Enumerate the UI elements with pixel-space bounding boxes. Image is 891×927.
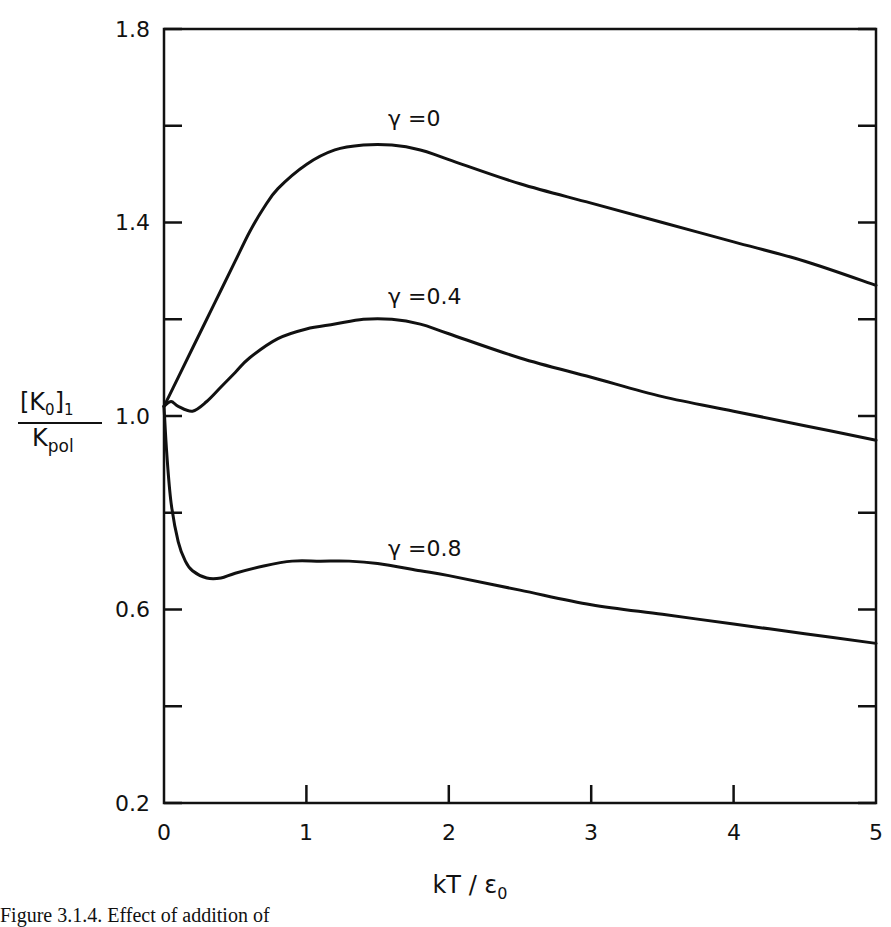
svg-text:Kpol: Kpol — [32, 424, 74, 456]
y-tick-label-1.0: 1.0 — [115, 404, 150, 429]
x-tick-label-5: 5 — [869, 820, 883, 845]
y-axis-label: [K0]1 Kpol — [18, 388, 102, 456]
curve-γ=0.8 — [164, 406, 876, 643]
curve-label-gamma-0.8: γ =0.8 — [388, 536, 461, 561]
curve-γ=0.4 — [164, 319, 876, 441]
curve-label-gamma-0.4: γ =0.4 — [388, 284, 461, 309]
x-tick-label-3: 3 — [584, 820, 598, 845]
curves — [164, 144, 876, 643]
x-tick-label-0: 0 — [157, 820, 171, 845]
x-axis-label: kT / ε0 — [432, 871, 507, 903]
svg-text:[K0]1: [K0]1 — [20, 388, 74, 419]
y-tick-label-0.6: 0.6 — [115, 597, 150, 622]
x-tick-label-1: 1 — [299, 820, 313, 845]
x-tick-label-4: 4 — [727, 820, 741, 845]
figure-caption: Figure 3.1.4. Effect of addition of — [0, 904, 270, 927]
y-tick-label-0.2: 0.2 — [115, 791, 150, 816]
y-tick-label-1.8: 1.8 — [115, 17, 150, 42]
plot-frame — [164, 29, 876, 803]
y-tick-label-1.4: 1.4 — [115, 210, 150, 235]
axis-ticks — [164, 29, 876, 803]
x-tick-label-2: 2 — [442, 820, 456, 845]
curve-label-gamma-0: γ =0 — [388, 106, 440, 131]
curve-γ=0 — [164, 144, 876, 406]
